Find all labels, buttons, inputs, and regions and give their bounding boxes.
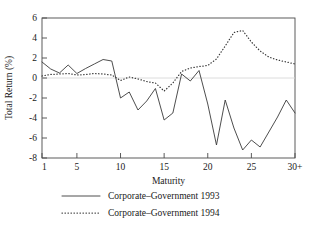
y-tick-label: 6 — [32, 13, 37, 23]
total-return-line-chart: -8-6-4-20246 151015202530+ Total Return … — [0, 0, 312, 228]
x-axis-title: Maturity — [152, 176, 185, 186]
x-tick-label: 10 — [116, 162, 126, 172]
y-tick-label: 4 — [32, 33, 37, 43]
y-tick-label: 0 — [32, 73, 37, 83]
legend-label-1: Corporate–Government 1993 — [108, 191, 220, 201]
y-tick-label: -2 — [29, 93, 37, 103]
series-line-1 — [42, 60, 295, 151]
y-tick-label: -8 — [29, 153, 37, 163]
plot-frame — [42, 18, 295, 158]
x-tick-label: 20 — [203, 162, 213, 172]
y-tick-label: -6 — [29, 133, 37, 143]
x-tick-label: 30+ — [288, 162, 303, 172]
series-line-2 — [42, 31, 295, 92]
plot-border — [42, 18, 295, 158]
y-axis-tick-labels: -8-6-4-20246 — [29, 13, 37, 163]
x-tick-label: 25 — [247, 162, 257, 172]
x-axis-tick-labels: 151015202530+ — [42, 162, 302, 172]
x-tick-label: 15 — [159, 162, 169, 172]
chart-legend: Corporate–Government 1993Corporate–Gover… — [62, 191, 220, 218]
data-series-layer — [42, 31, 295, 151]
chart-figure: -8-6-4-20246 151015202530+ Total Return … — [0, 0, 312, 228]
x-tick-label: 1 — [42, 162, 47, 172]
x-tick-label: 5 — [75, 162, 80, 172]
x-axis-ticks — [42, 153, 295, 158]
y-axis-title: Total Return (%) — [4, 56, 15, 120]
y-tick-label: -4 — [29, 113, 37, 123]
y-tick-label: 2 — [32, 53, 37, 63]
legend-label-2: Corporate–Government 1994 — [108, 208, 220, 218]
y-axis-ticks — [42, 18, 47, 158]
